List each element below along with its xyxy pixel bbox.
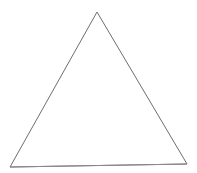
- figure-background: [0, 0, 197, 173]
- triangle-figure: [0, 0, 197, 173]
- figure-canvas: [0, 0, 197, 173]
